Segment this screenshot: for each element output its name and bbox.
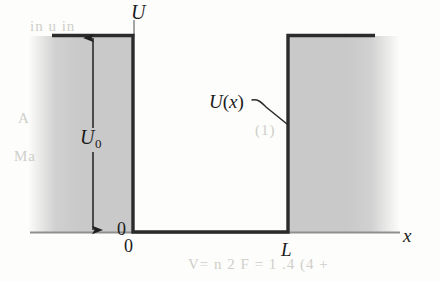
barrier-height-label: U0 xyxy=(80,127,101,150)
potential-curve-label: U(x) xyxy=(209,92,244,111)
x-axis-origin-label: 0 xyxy=(124,237,133,255)
potential-label-symbol: U xyxy=(209,91,223,112)
x-axis-label: x xyxy=(403,226,411,245)
y-axis-label: U xyxy=(131,2,145,22)
potential-well-figure: in u in A (1) Ma h V= n 2 F = 1 .4 (4 + xyxy=(0,0,440,281)
potential-label-variable: x xyxy=(229,91,237,112)
ux-leader-line xyxy=(252,100,287,124)
potential-label-close-paren: ) xyxy=(238,91,244,112)
barrier-height-symbol: U xyxy=(80,126,94,148)
potential-plot xyxy=(0,0,440,281)
x-axis-tick-label-L: L xyxy=(281,240,292,259)
right-barrier-region xyxy=(288,36,400,232)
barrier-height-subscript: 0 xyxy=(95,136,102,151)
